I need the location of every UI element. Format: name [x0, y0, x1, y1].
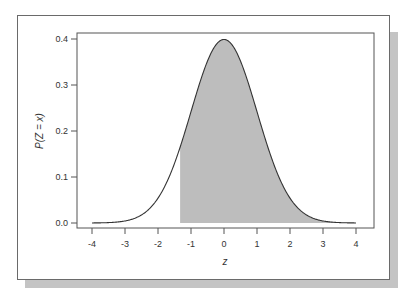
y-tick-label: 0.1	[55, 172, 68, 182]
x-tick-label: -4	[88, 239, 96, 249]
x-tick-label: -2	[154, 239, 162, 249]
x-tick-label: 3	[320, 239, 325, 249]
x-axis: -4-3-2-101234	[88, 228, 359, 249]
x-tick-label: 1	[254, 239, 259, 249]
y-axis: 0.00.10.20.30.4	[55, 34, 77, 228]
x-tick-label: -1	[187, 239, 195, 249]
y-tick-label: 0.3	[55, 80, 68, 90]
y-axis-label: P(Z = x)	[34, 113, 45, 149]
x-tick-label: 2	[287, 239, 292, 249]
normal-distribution-chart: -4-3-2-101234 0.00.10.20.30.4 z P(Z = x)	[0, 0, 417, 293]
x-axis-label: z	[222, 256, 228, 267]
x-tick-label: 0	[221, 239, 226, 249]
y-tick-label: 0.2	[55, 126, 68, 136]
x-tick-label: 4	[353, 239, 358, 249]
x-tick-label: -3	[121, 239, 129, 249]
y-tick-label: 0.4	[55, 34, 68, 44]
y-tick-label: 0.0	[55, 218, 68, 228]
plot-area	[77, 33, 374, 228]
